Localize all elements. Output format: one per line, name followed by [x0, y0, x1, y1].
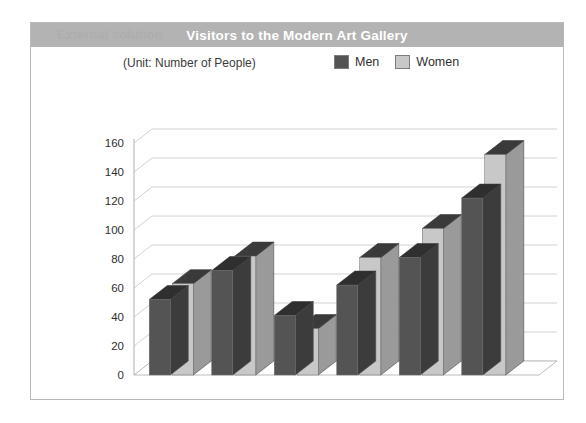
- chart-title-bar: External solution Visitors to the Modern…: [31, 23, 563, 47]
- x-axis-category-label: August: [475, 397, 512, 399]
- legend-swatch-women-icon: [395, 55, 410, 69]
- x-axis-category-label: March: [164, 397, 196, 399]
- bar-men-august: [462, 184, 501, 375]
- y-axis-tick-label: 20: [111, 340, 124, 352]
- legend-label-women: Women: [416, 55, 459, 69]
- gridline-connector: [134, 158, 152, 172]
- gridline-connector: [134, 129, 152, 143]
- bar-men-march: [149, 286, 188, 375]
- chart-plot-area: 020406080100120140160MarchAprilMayJuneJu…: [31, 81, 565, 399]
- legend-item-men: Men: [334, 55, 379, 69]
- gridline-connector: [134, 274, 152, 288]
- x-axis-category-label: July: [420, 397, 441, 399]
- chart-subheader: (Unit: Number of People) Men Women: [31, 47, 563, 81]
- bar-men-may: [274, 302, 313, 375]
- bar-chart-svg: 020406080100120140160MarchAprilMayJuneJu…: [31, 81, 565, 399]
- y-axis-tick-label: 140: [105, 166, 124, 178]
- y-axis-tick-label: 0: [118, 369, 124, 381]
- y-axis-tick-label: 100: [105, 224, 124, 236]
- y-axis-tick-label: 40: [111, 311, 124, 323]
- legend-item-women: Women: [395, 55, 459, 69]
- bar-men-april: [212, 257, 251, 375]
- x-axis-category-label: April: [231, 397, 254, 399]
- bar-men-june: [337, 271, 376, 375]
- gridline-connector: [134, 245, 152, 259]
- gridline-connector: [134, 187, 152, 201]
- x-axis-category-label: June: [355, 397, 380, 399]
- y-axis-tick-label: 80: [111, 253, 124, 265]
- y-axis-tick-label: 120: [105, 195, 124, 207]
- chart-legend: Men Women: [334, 55, 459, 69]
- unit-label: (Unit: Number of People): [123, 56, 256, 70]
- y-axis-tick-label: 160: [105, 137, 124, 149]
- y-axis-tick-label: 60: [111, 282, 124, 294]
- legend-label-men: Men: [355, 55, 379, 69]
- page-title: Visitors to the Modern Art Gallery: [186, 28, 407, 43]
- title-watermark-text: External solution: [57, 27, 162, 42]
- gridline-connector: [134, 216, 152, 230]
- legend-swatch-men-icon: [334, 55, 349, 69]
- bar-men-july: [399, 244, 438, 375]
- chart-frame: External solution Visitors to the Modern…: [30, 22, 564, 400]
- x-axis-category-label: May: [294, 397, 316, 399]
